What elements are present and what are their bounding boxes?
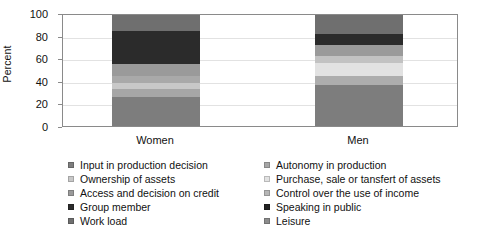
legend-item-label: Autonomy in production [276, 159, 386, 172]
bar-segment[interactable] [315, 63, 403, 76]
legend-swatch-icon [68, 176, 74, 182]
bar-segment[interactable] [315, 15, 403, 34]
bar-segment[interactable] [112, 64, 200, 76]
legend-swatch-icon [264, 176, 270, 182]
legend-item[interactable]: Work load [68, 214, 258, 228]
bar-segment[interactable] [112, 97, 200, 126]
y-tick-80: 80 [8, 31, 48, 43]
legend-swatch-icon [68, 204, 74, 210]
legend-item[interactable]: Access and decision on credit [68, 186, 258, 200]
legend-item-label: Group member [80, 201, 151, 214]
legend-item-label: Purchase, sale or tansfert of assets [276, 173, 441, 186]
legend-swatch-icon [264, 190, 270, 196]
legend-item-label: Control over the use of income [276, 187, 419, 200]
bar-segment[interactable] [315, 34, 403, 45]
y-tick-0: 0 [8, 121, 48, 133]
legend-item[interactable]: Leisure [264, 214, 464, 228]
plot-area [62, 14, 458, 127]
legend-item[interactable]: Ownership of assets [68, 172, 258, 186]
bar-segment[interactable] [315, 85, 403, 126]
legend-item[interactable]: Group member [68, 200, 258, 214]
legend-swatch-icon [68, 190, 74, 196]
bar-segment[interactable] [112, 89, 200, 97]
y-tickmark-0 [58, 127, 62, 128]
legend-item-label: Input in production decision [80, 159, 208, 172]
legend-swatch-icon [264, 204, 270, 210]
legend-item-label: Leisure [276, 215, 310, 228]
legend-item[interactable]: Control over the use of income [264, 186, 464, 200]
legend-item[interactable]: Autonomy in production [264, 158, 464, 172]
bar-segment[interactable] [315, 56, 403, 63]
legend-item-label: Work load [80, 215, 127, 228]
y-tick-60: 60 [8, 53, 48, 65]
x-tick-label-women: Women [136, 134, 174, 146]
y-tick-20: 20 [8, 98, 48, 110]
bar-segment[interactable] [112, 31, 200, 64]
legend-item-label: Speaking in public [276, 201, 361, 214]
y-tick-40: 40 [8, 76, 48, 88]
legend-item[interactable]: Input in production decision [68, 158, 258, 172]
legend-swatch-icon [264, 218, 270, 224]
bar-segment[interactable] [315, 45, 403, 56]
legend-swatch-icon [264, 162, 270, 168]
bar-segment[interactable] [112, 83, 200, 90]
legend-item[interactable]: Purchase, sale or tansfert of assets [264, 172, 464, 186]
legend-swatch-icon [68, 162, 74, 168]
bar-women[interactable] [112, 15, 200, 126]
legend-item-label: Ownership of assets [80, 173, 175, 186]
legend-swatch-icon [68, 218, 74, 224]
y-tick-100: 100 [8, 8, 48, 20]
stacked-bar-chart: Percent 100 80 60 40 20 0 Women Men Inpu… [0, 0, 479, 236]
x-tick-label-men: Men [347, 134, 368, 146]
legend-item-label: Access and decision on credit [80, 187, 219, 200]
bar-segment[interactable] [112, 76, 200, 83]
legend-item[interactable]: Speaking in public [264, 200, 464, 214]
bar-men[interactable] [315, 15, 403, 126]
bar-segment[interactable] [112, 15, 200, 31]
chart-legend: Input in production decisionAutonomy in … [68, 158, 468, 228]
bar-segment[interactable] [315, 76, 403, 85]
